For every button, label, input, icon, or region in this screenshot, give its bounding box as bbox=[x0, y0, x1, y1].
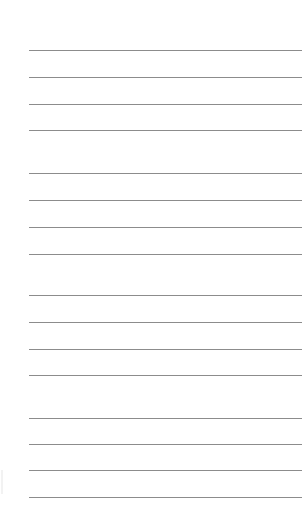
ruled-line bbox=[29, 104, 302, 105]
ruled-line bbox=[29, 130, 302, 131]
ruled-line bbox=[29, 227, 302, 228]
ruled-line bbox=[29, 497, 302, 498]
ruled-line bbox=[29, 444, 302, 445]
ruled-line bbox=[29, 470, 302, 471]
margin-mark bbox=[1, 470, 3, 494]
ruled-line bbox=[29, 375, 302, 376]
ruled-line bbox=[29, 173, 302, 174]
ruled-line bbox=[29, 322, 302, 323]
ruled-line bbox=[29, 295, 302, 296]
ruled-line bbox=[29, 77, 302, 78]
ruled-line bbox=[29, 200, 302, 201]
ruled-line bbox=[29, 418, 302, 419]
ruled-line bbox=[29, 50, 302, 51]
ruled-line bbox=[29, 254, 302, 255]
ruled-line bbox=[29, 349, 302, 350]
